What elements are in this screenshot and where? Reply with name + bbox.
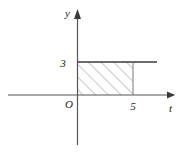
x-tick-label-5: 5 [130, 100, 136, 112]
shaded-region [78, 62, 134, 95]
y-axis-label: y [64, 7, 70, 19]
math-figure: y t O 3 5 [0, 0, 188, 159]
coordinate-plane-svg: y t O 3 5 [0, 0, 188, 159]
origin-label: O [65, 98, 73, 110]
y-tick-label-3: 3 [59, 57, 66, 69]
